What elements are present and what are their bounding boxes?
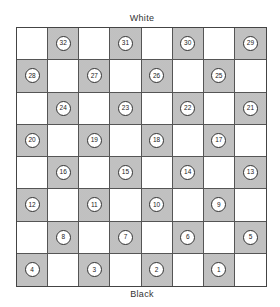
light-square <box>142 28 173 60</box>
light-square <box>173 60 204 92</box>
dark-square: 19 <box>79 125 110 157</box>
light-square <box>142 157 173 189</box>
light-square <box>142 222 173 254</box>
square-number-label: 4 <box>25 262 40 277</box>
dark-square: 11 <box>79 189 110 221</box>
square-number-label: 26 <box>149 68 164 83</box>
white-side-label: White <box>0 13 280 23</box>
dark-square: 25 <box>204 60 235 92</box>
dark-square: 8 <box>48 222 79 254</box>
square-number-label: 20 <box>25 133 40 148</box>
square-number-label: 9 <box>211 197 226 212</box>
dark-square: 7 <box>110 222 141 254</box>
dark-square: 27 <box>79 60 110 92</box>
light-square <box>17 222 48 254</box>
square-number-label: 16 <box>56 165 71 180</box>
light-square <box>48 60 79 92</box>
square-number-label: 30 <box>180 36 195 51</box>
dark-square: 22 <box>173 93 204 125</box>
square-number-label: 25 <box>211 68 226 83</box>
dark-square: 1 <box>204 254 235 286</box>
square-number-label: 19 <box>87 133 102 148</box>
square-number-label: 13 <box>243 165 258 180</box>
square-number-label: 14 <box>180 165 195 180</box>
dark-square: 12 <box>17 189 48 221</box>
square-number-label: 12 <box>25 197 40 212</box>
square-number-label: 28 <box>25 68 40 83</box>
light-square <box>204 28 235 60</box>
dark-square: 3 <box>79 254 110 286</box>
light-square <box>235 125 266 157</box>
light-square <box>235 60 266 92</box>
dark-square: 17 <box>204 125 235 157</box>
dark-square: 13 <box>235 157 266 189</box>
light-square <box>235 189 266 221</box>
light-square <box>17 93 48 125</box>
light-square <box>110 125 141 157</box>
light-square <box>17 28 48 60</box>
checkerboard: 3231302928272625242322212019181716151413… <box>16 27 267 287</box>
dark-square: 14 <box>173 157 204 189</box>
light-square <box>79 28 110 60</box>
dark-square: 23 <box>110 93 141 125</box>
dark-square: 20 <box>17 125 48 157</box>
light-square <box>79 93 110 125</box>
light-square <box>110 254 141 286</box>
square-number-label: 7 <box>118 230 133 245</box>
dark-square: 5 <box>235 222 266 254</box>
square-number-label: 11 <box>87 197 102 212</box>
square-number-label: 23 <box>118 101 133 116</box>
dark-square: 16 <box>48 157 79 189</box>
dark-square: 26 <box>142 60 173 92</box>
light-square <box>235 254 266 286</box>
square-number-label: 1 <box>211 262 226 277</box>
dark-square: 32 <box>48 28 79 60</box>
dark-square: 30 <box>173 28 204 60</box>
square-number-label: 17 <box>211 133 226 148</box>
dark-square: 21 <box>235 93 266 125</box>
square-number-label: 10 <box>149 197 164 212</box>
dark-square: 18 <box>142 125 173 157</box>
dark-square: 15 <box>110 157 141 189</box>
square-number-label: 8 <box>56 230 71 245</box>
light-square <box>110 60 141 92</box>
dark-square: 10 <box>142 189 173 221</box>
dark-square: 4 <box>17 254 48 286</box>
light-square <box>204 93 235 125</box>
square-number-label: 2 <box>149 262 164 277</box>
light-square <box>204 222 235 254</box>
square-number-label: 31 <box>118 36 133 51</box>
dark-square: 9 <box>204 189 235 221</box>
square-number-label: 6 <box>180 230 195 245</box>
square-number-label: 3 <box>87 262 102 277</box>
light-square <box>173 254 204 286</box>
dark-square: 31 <box>110 28 141 60</box>
light-square <box>17 157 48 189</box>
light-square <box>173 189 204 221</box>
dark-square: 2 <box>142 254 173 286</box>
light-square <box>48 254 79 286</box>
light-square <box>142 93 173 125</box>
light-square <box>79 222 110 254</box>
light-square <box>204 157 235 189</box>
dark-square: 29 <box>235 28 266 60</box>
light-square <box>173 125 204 157</box>
dark-square: 24 <box>48 93 79 125</box>
square-number-label: 32 <box>56 36 71 51</box>
square-number-label: 22 <box>180 101 195 116</box>
square-number-label: 18 <box>149 133 164 148</box>
square-number-label: 24 <box>56 101 71 116</box>
light-square <box>48 189 79 221</box>
dark-square: 28 <box>17 60 48 92</box>
square-number-label: 5 <box>243 230 258 245</box>
square-number-label: 21 <box>243 101 258 116</box>
square-number-label: 15 <box>118 165 133 180</box>
square-number-label: 27 <box>87 68 102 83</box>
light-square <box>110 189 141 221</box>
black-side-label: Black <box>0 289 280 299</box>
light-square <box>48 125 79 157</box>
light-square <box>79 157 110 189</box>
square-number-label: 29 <box>243 36 258 51</box>
dark-square: 6 <box>173 222 204 254</box>
